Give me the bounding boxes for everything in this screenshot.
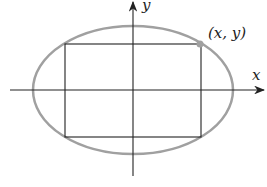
point-label: (x, y): [208, 24, 246, 42]
x-axis-label: x: [252, 66, 261, 84]
y-axis-label: y: [141, 0, 151, 14]
corner-point: [197, 41, 204, 48]
ellipse-inscribed-rectangle-diagram: (x, y) x y: [0, 0, 267, 187]
